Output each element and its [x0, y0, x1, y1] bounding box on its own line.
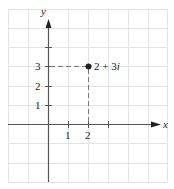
point-label: 2 + 3i [94, 60, 120, 72]
point-marker [86, 64, 92, 70]
y-axis [45, 19, 52, 182]
y-axis-arrow-icon [46, 19, 52, 28]
point-label-real: 2 + 3 [94, 60, 117, 72]
x-tick-label-2: 2 [85, 129, 91, 141]
x-axis-label: x [162, 118, 168, 130]
y-tick-label-2: 2 [35, 80, 41, 92]
y-tick-label-1: 1 [35, 99, 41, 111]
y-axis-label: y [40, 5, 46, 17]
x-axis [8, 121, 161, 128]
x-tick-label-1: 1 [65, 129, 71, 141]
complex-plane-diagram: y x 1 2 3 2 1 2 + 3i [0, 0, 174, 189]
x-axis-arrow-icon [151, 122, 161, 128]
point-guides [50, 67, 89, 123]
point-label-imag: i [117, 60, 120, 72]
y-tick-label-3: 3 [35, 60, 41, 72]
grid [8, 9, 168, 183]
